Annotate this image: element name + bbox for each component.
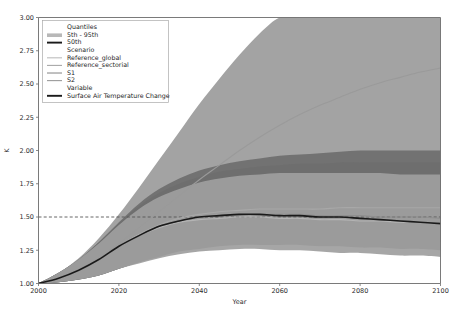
y-tick-label: 2.50 — [20, 80, 34, 88]
chart-legend: Quantiles5th - 95th50thScenarioReference… — [43, 21, 170, 103]
y-tick-label: 1.50 — [20, 213, 34, 221]
legend-item-label: S1 — [67, 69, 75, 76]
y-tick-label: 3.00 — [20, 14, 34, 22]
x-axis-title: Year — [232, 298, 247, 306]
y-tick-label: 1.25 — [20, 247, 34, 255]
legend-swatch-band — [47, 33, 62, 37]
y-tick-label: 1.75 — [20, 180, 34, 188]
x-tick-label: 2080 — [352, 287, 369, 295]
legend-item-label: S2 — [67, 76, 75, 83]
x-tick-label: 2060 — [271, 287, 288, 295]
x-tick-label: 2000 — [30, 287, 47, 295]
y-axis-title: K — [3, 148, 11, 153]
y-tick-label: 2.25 — [20, 114, 34, 122]
x-tick-label: 2040 — [191, 287, 208, 295]
legend-group-title: Scenario — [67, 46, 95, 53]
legend-item-label: 5th - 95th — [67, 31, 98, 38]
y-tick-label: 2.00 — [20, 147, 34, 155]
legend-item-label: Surface Air Temperature Change — [67, 92, 170, 100]
x-tick-label: 2020 — [111, 287, 128, 295]
legend-item-label: 50th — [67, 38, 81, 45]
legend-group-title: Variable — [67, 84, 93, 91]
legend-item-label: Reference_sectorial — [67, 61, 129, 69]
temperature-projection-chart: 1.001.251.501.752.002.252.502.753.002000… — [0, 0, 469, 315]
chart-figure: 1.001.251.501.752.002.252.502.753.002000… — [0, 0, 469, 315]
legend-group-title: Quantiles — [67, 23, 97, 30]
x-tick-label: 2100 — [432, 287, 449, 295]
y-tick-label: 2.75 — [20, 47, 34, 55]
